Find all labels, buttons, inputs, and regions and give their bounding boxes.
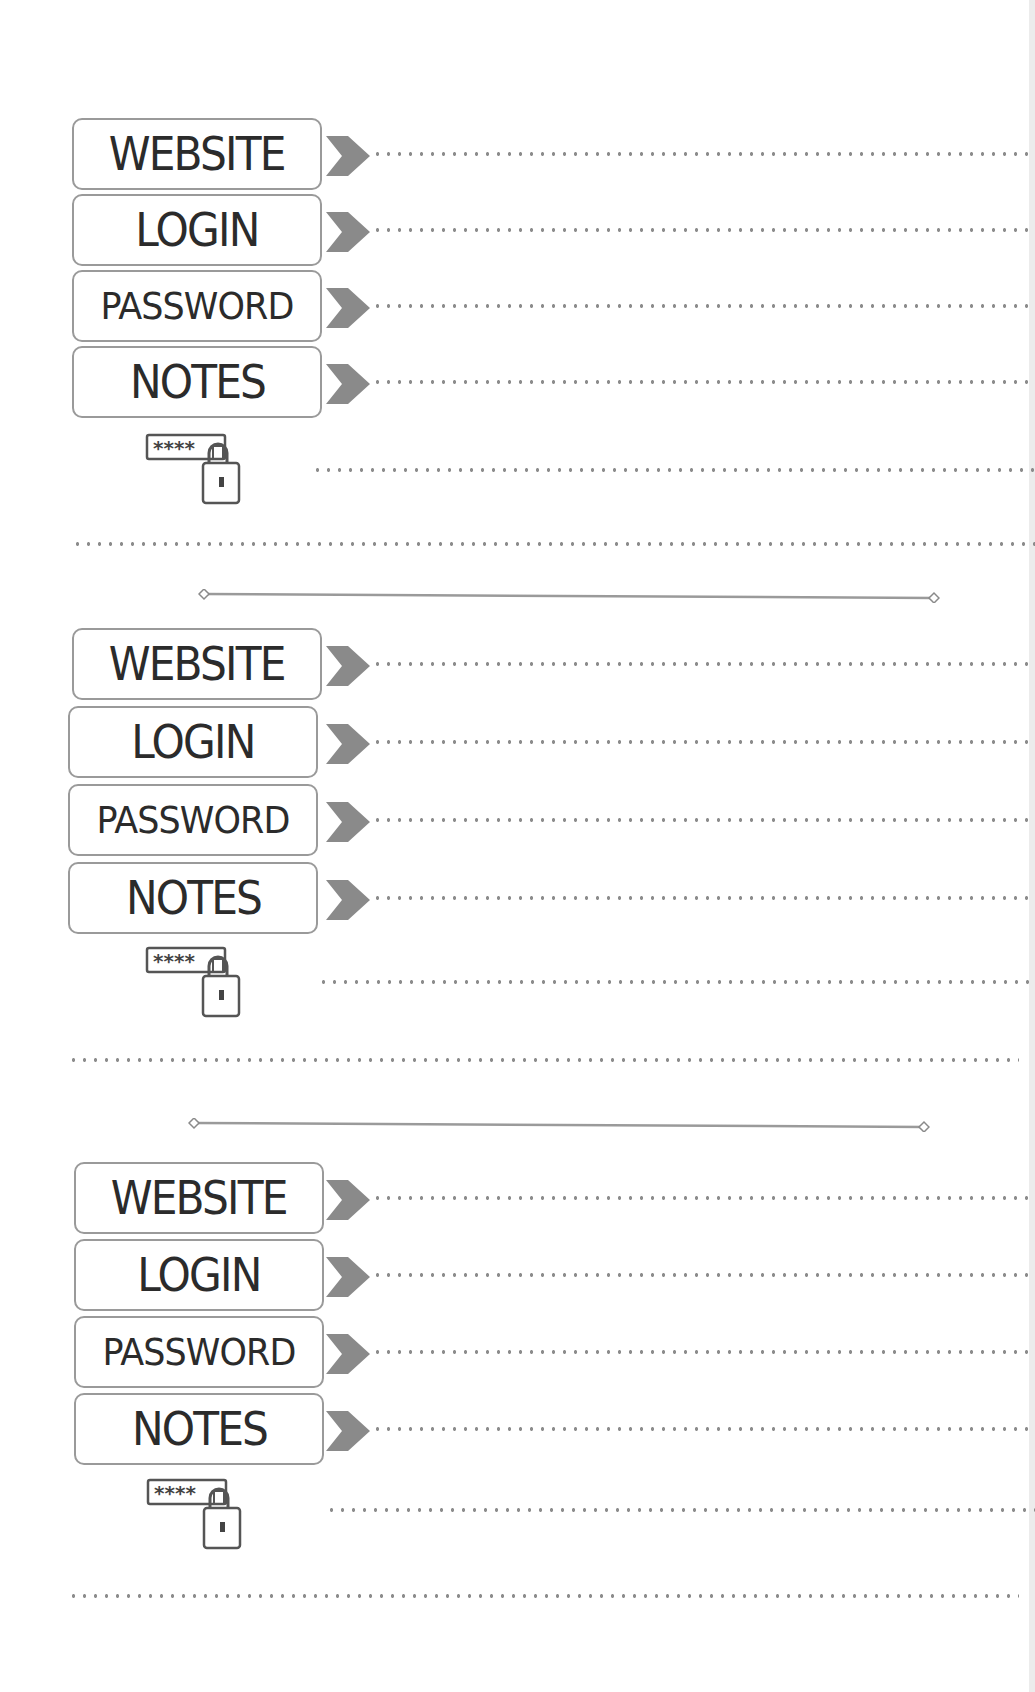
login-label: LOGIN — [131, 715, 254, 769]
chevron-right-icon — [326, 364, 370, 404]
website-label: WEBSITE — [111, 1171, 287, 1225]
notes-label-box: NOTES — [74, 1393, 324, 1465]
login-label-box: LOGIN — [72, 194, 322, 266]
notes-input-line[interactable] — [372, 896, 1035, 900]
chevron-right-icon — [326, 1411, 370, 1451]
website-label-box: WEBSITE — [72, 628, 322, 700]
website-input-line[interactable] — [372, 1196, 1035, 1200]
login-label-box: LOGIN — [74, 1239, 324, 1311]
extra-notes-line[interactable] — [318, 980, 1035, 984]
field-row-notes: NOTES — [0, 346, 1035, 424]
website-label: WEBSITE — [109, 637, 285, 691]
asterisks-text: **** — [154, 1481, 196, 1505]
chevron-right-icon — [326, 212, 370, 252]
notes-label: NOTES — [131, 1402, 266, 1456]
chevron-right-icon — [326, 802, 370, 842]
password-input-line[interactable] — [372, 304, 1035, 308]
chevron-right-icon — [326, 1257, 370, 1297]
field-row-password: PASSWORD — [0, 784, 1035, 862]
notes-label: NOTES — [125, 871, 260, 925]
login-label: LOGIN — [137, 1248, 260, 1302]
field-row-password: PASSWORD — [0, 270, 1035, 348]
login-label: LOGIN — [135, 203, 258, 257]
chevron-right-icon — [326, 288, 370, 328]
password-label-box: PASSWORD — [74, 1316, 324, 1388]
login-input-line[interactable] — [372, 228, 1035, 232]
password-label-box: PASSWORD — [72, 270, 322, 342]
extra-notes-line[interactable] — [326, 1508, 1035, 1512]
login-label-box: LOGIN — [68, 706, 318, 778]
notes-label-box: NOTES — [72, 346, 322, 418]
password-lock-icon: **** — [146, 1478, 256, 1558]
notes-label: NOTES — [129, 355, 264, 409]
extra-notes-line-full[interactable] — [72, 542, 1035, 546]
website-label-box: WEBSITE — [74, 1162, 324, 1234]
password-lock-icon: **** — [145, 433, 255, 513]
password-label-box: PASSWORD — [68, 784, 318, 856]
password-label: PASSWORD — [96, 798, 289, 842]
password-label: PASSWORD — [100, 284, 293, 328]
field-row-login: LOGIN — [0, 706, 1035, 784]
login-input-line[interactable] — [372, 740, 1035, 744]
section-divider — [198, 589, 940, 603]
password-input-line[interactable] — [372, 818, 1035, 822]
website-input-line[interactable] — [372, 662, 1035, 666]
login-input-line[interactable] — [372, 1273, 1035, 1277]
chevron-right-icon — [326, 136, 370, 176]
password-label: PASSWORD — [102, 1330, 295, 1374]
website-label: WEBSITE — [109, 127, 285, 181]
extra-notes-line-full[interactable] — [68, 1058, 1019, 1062]
password-lock-icon: **** — [145, 946, 255, 1026]
chevron-right-icon — [326, 646, 370, 686]
notes-label-box: NOTES — [68, 862, 318, 934]
field-row-notes: NOTES — [0, 1393, 1035, 1471]
section-divider — [188, 1118, 930, 1132]
chevron-right-icon — [326, 724, 370, 764]
field-row-website: WEBSITE — [0, 118, 1035, 196]
field-row-login: LOGIN — [0, 1239, 1035, 1317]
field-row-login: LOGIN — [0, 194, 1035, 272]
website-input-line[interactable] — [372, 152, 1035, 156]
extra-notes-line[interactable] — [312, 468, 1035, 472]
asterisks-text: **** — [153, 436, 195, 460]
chevron-right-icon — [326, 1180, 370, 1220]
notes-input-line[interactable] — [372, 1427, 1035, 1431]
extra-notes-line-full[interactable] — [68, 1594, 1019, 1598]
notes-input-line[interactable] — [372, 380, 1035, 384]
chevron-right-icon — [326, 1334, 370, 1374]
asterisks-text: **** — [153, 949, 195, 973]
field-row-password: PASSWORD — [0, 1316, 1035, 1394]
website-label-box: WEBSITE — [72, 118, 322, 190]
field-row-website: WEBSITE — [0, 1162, 1035, 1240]
chevron-right-icon — [326, 880, 370, 920]
password-input-line[interactable] — [372, 1350, 1035, 1354]
field-row-website: WEBSITE — [0, 628, 1035, 706]
field-row-notes: NOTES — [0, 862, 1035, 940]
